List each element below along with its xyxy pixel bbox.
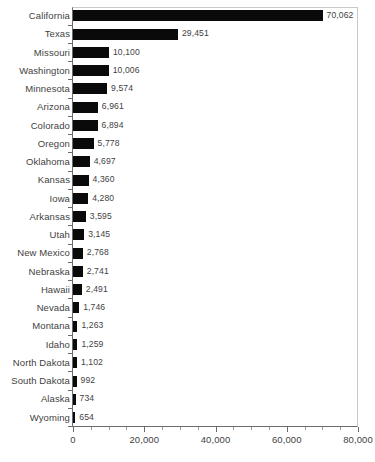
category-label: Utah	[50, 226, 70, 244]
x-axis-minor-tick	[251, 427, 252, 430]
bar	[73, 47, 109, 58]
bar-row: South Dakota992	[0, 372, 375, 390]
category-label: Arkansas	[30, 208, 70, 226]
x-axis-tick	[358, 427, 359, 432]
bar-row: Montana1,263	[0, 317, 375, 335]
x-axis-tick-label: 20,000	[129, 434, 159, 445]
bar-value-label: 29,451	[182, 25, 209, 43]
bar-row: Missouri10,100	[0, 44, 375, 62]
category-label: Nevada	[37, 299, 70, 317]
x-axis-tick	[216, 427, 217, 432]
category-label: South Dakota	[11, 372, 70, 390]
category-label: Missouri	[34, 44, 70, 62]
bar	[73, 120, 98, 131]
bar-rows-container: California70,062Texas29,451Missouri10,10…	[0, 7, 375, 427]
bar	[73, 211, 86, 222]
bar-row: Wyoming654	[0, 409, 375, 427]
bar-row: Arkansas3,595	[0, 208, 375, 226]
bar	[73, 412, 75, 423]
bar	[73, 83, 107, 94]
bar-value-label: 10,100	[113, 44, 140, 62]
bar-row: North Dakota1,102	[0, 354, 375, 372]
x-axis-minor-tick	[198, 427, 199, 430]
bar-value-label: 992	[81, 372, 96, 390]
category-label: Iowa	[50, 190, 70, 208]
x-axis-minor-tick	[233, 427, 234, 430]
bar-row: Oregon5,778	[0, 135, 375, 153]
bar-chart: California70,062Texas29,451Missouri10,10…	[0, 0, 375, 462]
bar	[73, 266, 83, 277]
bar	[73, 302, 79, 313]
bar	[73, 65, 109, 76]
x-axis-minor-tick	[269, 427, 270, 430]
bar-row: Oklahoma4,697	[0, 153, 375, 171]
bar-row: Colorado6,894	[0, 117, 375, 135]
x-axis-tick-label: 40,000	[201, 434, 231, 445]
x-axis-tick	[73, 427, 74, 432]
bar-value-label: 3,145	[88, 226, 110, 244]
category-label: Nebraska	[29, 263, 70, 281]
x-axis-minor-tick	[91, 427, 92, 430]
category-label: Colorado	[31, 117, 70, 135]
bar	[73, 193, 88, 204]
bar-value-label: 10,006	[113, 62, 140, 80]
bar	[73, 229, 84, 240]
bar-value-label: 4,360	[93, 171, 115, 189]
x-axis-minor-tick	[305, 427, 306, 430]
x-axis-tick-label: 0	[70, 434, 75, 445]
bar	[73, 138, 94, 149]
bar-row: Nevada1,746	[0, 299, 375, 317]
category-label: Arizona	[37, 98, 70, 116]
bar	[73, 248, 83, 259]
category-label: Hawaii	[41, 281, 70, 299]
bar-value-label: 734	[80, 390, 95, 408]
bar	[73, 321, 77, 332]
x-axis-tick-label: 80,000	[343, 434, 373, 445]
bar-value-label: 1,746	[83, 299, 105, 317]
bar-value-label: 5,778	[98, 135, 120, 153]
category-label: Washington	[19, 62, 70, 80]
bar-value-label: 9,574	[111, 80, 133, 98]
bar-value-label: 6,894	[102, 117, 124, 135]
bar-value-label: 2,491	[86, 281, 108, 299]
x-axis-tick-label: 60,000	[272, 434, 302, 445]
bar	[73, 394, 76, 405]
category-label: Alaska	[41, 390, 70, 408]
bar-row: Idaho1,259	[0, 336, 375, 354]
bar	[73, 10, 323, 21]
x-axis-minor-tick	[180, 427, 181, 430]
bar-value-label: 4,280	[92, 190, 114, 208]
bar	[73, 29, 178, 40]
x-axis-minor-tick	[109, 427, 110, 430]
bar-row: Alaska734	[0, 390, 375, 408]
bar	[73, 339, 77, 350]
x-axis-minor-tick	[162, 427, 163, 430]
bar-value-label: 4,697	[94, 153, 116, 171]
bar-value-label: 2,768	[87, 244, 109, 262]
bar-row: Washington10,006	[0, 62, 375, 80]
category-label: Idaho	[46, 336, 70, 354]
bar-row: Arizona6,961	[0, 98, 375, 116]
bar-value-label: 3,595	[90, 208, 112, 226]
bar-row: California70,062	[0, 7, 375, 25]
x-axis-minor-tick	[322, 427, 323, 430]
bar-row: Texas29,451	[0, 25, 375, 43]
bar	[73, 357, 77, 368]
category-label: Montana	[32, 317, 70, 335]
x-axis-minor-tick	[126, 427, 127, 430]
bar-value-label: 654	[79, 409, 94, 427]
category-label: Kansas	[38, 171, 70, 189]
bar	[73, 376, 77, 387]
category-label: New Mexico	[17, 244, 70, 262]
bar	[73, 102, 98, 113]
bar-value-label: 6,961	[102, 98, 124, 116]
bar-row: Kansas4,360	[0, 171, 375, 189]
bar-row: Minnesota9,574	[0, 80, 375, 98]
category-label: North Dakota	[13, 354, 70, 372]
bar-row: Nebraska2,741	[0, 263, 375, 281]
bar-value-label: 1,102	[81, 354, 103, 372]
bar-value-label: 2,741	[87, 263, 109, 281]
bar	[73, 284, 82, 295]
category-label: Texas	[45, 25, 70, 43]
bar-value-label: 1,263	[81, 317, 103, 335]
